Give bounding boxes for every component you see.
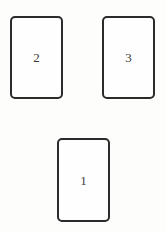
diagram-canvas: 2 3 1 <box>0 0 165 233</box>
card-bottom-label: 1 <box>80 174 87 187</box>
card-bottom[interactable]: 1 <box>57 138 110 222</box>
card-top-right-label: 3 <box>125 51 132 64</box>
card-top-right[interactable]: 3 <box>102 16 155 99</box>
card-top-left-label: 2 <box>33 51 40 64</box>
card-top-left[interactable]: 2 <box>10 16 63 99</box>
